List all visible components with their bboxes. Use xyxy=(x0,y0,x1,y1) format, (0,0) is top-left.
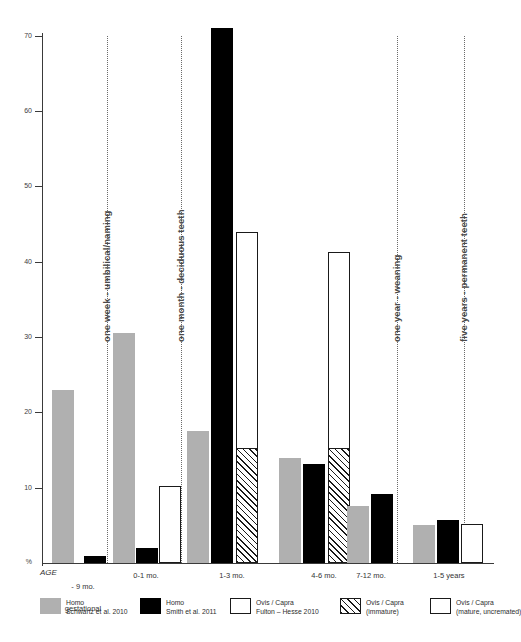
bar-ovis-capra-mature-uncremated-g5 xyxy=(461,524,483,563)
legend-item-ovis-capra-immature[interactable]: Ovis / Capra (immature) xyxy=(340,598,404,616)
bar-group-1-5years xyxy=(413,36,485,563)
legend-swatch-hatched-icon xyxy=(340,598,361,614)
y-tick-label-30: 30 xyxy=(6,333,32,340)
legend-label-homo-schwartz-line2: Schwartz et al. 2010 xyxy=(66,608,128,617)
bar-homo-schwartz-g4 xyxy=(347,506,369,563)
legend-item-homo-smith[interactable]: Homo Smith et al. 2011 xyxy=(140,598,217,616)
bar-homo-smith-g0 xyxy=(84,556,106,563)
legend-item-homo-schwartz[interactable]: Homo Schwartz et al. 2010 xyxy=(40,598,128,616)
y-tick-label-60: 60 xyxy=(6,107,32,114)
legend-label-ovis-fulton-line2: Fulton – Hesse 2010 xyxy=(256,608,319,617)
y-tick-label-40: 40 xyxy=(6,258,32,265)
bar-homo-schwartz-g5 xyxy=(413,525,435,563)
legend-label-ovis-fulton-line1: Ovis / Capra xyxy=(256,599,294,606)
y-tick-label-70: 70 xyxy=(6,32,32,39)
bar-homo-smith-g3 xyxy=(303,464,325,563)
bar-homo-schwartz-g2 xyxy=(187,431,209,563)
bar-homo-schwartz-g0 xyxy=(52,390,74,563)
legend-label-ovis-immature-line1: Ovis / Capra xyxy=(366,599,404,606)
legend-swatch-gray-icon xyxy=(40,598,61,614)
category-label-gestational-line1: - 9 mo. xyxy=(71,582,94,591)
legend-label-ovis-mature-line1: Ovis / Capra xyxy=(456,599,494,606)
y-tick-label-20: 20 xyxy=(6,408,32,415)
y-tick-label-10: 10 xyxy=(6,484,32,491)
bar-homo-schwartz-g3 xyxy=(279,458,301,563)
y-tick-label-50: 50 xyxy=(6,182,32,189)
category-label-7-12mo: 7-12 mo. xyxy=(345,570,397,581)
bar-homo-smith-g1 xyxy=(136,548,158,563)
legend-swatch-white-mature-icon xyxy=(430,598,451,614)
bar-homo-smith-g5 xyxy=(437,520,459,563)
legend-label-homo-smith-line1: Homo xyxy=(166,599,184,606)
bar-homo-smith-g2 xyxy=(211,28,233,563)
legend-swatch-black-icon xyxy=(140,598,161,614)
bar-group-1-3mo xyxy=(187,36,277,563)
legend-item-ovis-capra-fulton-hesse[interactable]: Ovis / Capra Fulton – Hesse 2010 xyxy=(230,598,319,616)
legend-label-homo-schwartz-line1: Homo xyxy=(66,599,84,606)
bar-group-7-12mo xyxy=(345,36,397,563)
legend-label-ovis-mature-line2: (mature, uncremated) xyxy=(456,608,521,617)
legend-item-ovis-capra-mature-uncremated[interactable]: Ovis / Capra (mature, uncremated) xyxy=(430,598,521,616)
bar-homo-smith-g4 xyxy=(371,494,393,563)
bar-group-0-1mo xyxy=(113,36,179,563)
legend-label-homo-smith-line2: Smith et al. 2011 xyxy=(166,608,217,617)
x-axis-line xyxy=(42,563,494,564)
category-label-1-5years: 1-5 years xyxy=(413,570,485,581)
y-axis-unit-label: % xyxy=(6,558,32,565)
category-label-0-1mo: 0-1 mo. xyxy=(113,570,179,581)
bar-homo-schwartz-g1 xyxy=(113,333,135,563)
chart-legend: Homo Schwartz et al. 2010 Homo Smith et … xyxy=(40,598,500,628)
legend-label-ovis-immature-line2: (immature) xyxy=(366,608,404,617)
bar-group-gestational xyxy=(42,36,107,563)
category-label-1-3mo: 1-3 mo. xyxy=(187,570,277,581)
legend-swatch-white-icon xyxy=(230,598,251,614)
bar-ovis-capra-immature-g2 xyxy=(236,448,258,563)
bar-ovis-capra-fulton-hesse-g1 xyxy=(159,486,181,563)
